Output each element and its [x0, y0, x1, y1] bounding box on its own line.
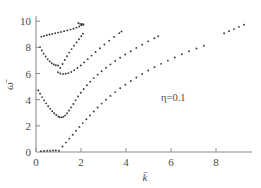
data-point: [59, 116, 61, 118]
x-tick-label: 0: [33, 156, 39, 168]
x-tick-label: 8: [213, 156, 219, 168]
data-point: [39, 46, 41, 48]
data-point: [59, 73, 61, 75]
data-point: [89, 114, 91, 116]
data-point: [93, 77, 95, 79]
data-point: [57, 71, 59, 73]
data-point: [68, 52, 70, 54]
data-point: [79, 23, 81, 25]
data-point: [124, 53, 126, 55]
data-point: [99, 47, 101, 49]
data-point: [195, 47, 197, 49]
data-point: [65, 73, 67, 75]
data-points-layer: [37, 22, 245, 152]
data-point: [103, 44, 105, 46]
data-point: [118, 32, 120, 34]
data-point: [77, 96, 79, 98]
data-point: [68, 138, 70, 140]
data-point: [67, 72, 69, 74]
data-point: [87, 58, 89, 60]
data-point: [41, 96, 43, 98]
data-point: [174, 57, 176, 59]
data-point: [43, 150, 45, 152]
data-point: [78, 38, 80, 40]
data-point: [78, 126, 80, 128]
data-point: [73, 45, 75, 47]
data-point: [61, 116, 63, 118]
data-point: [49, 60, 51, 62]
data-point: [55, 114, 57, 116]
data-point: [83, 24, 85, 26]
data-point: [119, 57, 121, 59]
data-point: [135, 47, 137, 49]
data-point: [147, 40, 149, 42]
data-point: [72, 103, 74, 105]
data-point: [63, 116, 65, 118]
data-point: [223, 32, 225, 34]
data-point: [43, 53, 45, 55]
data-point: [97, 107, 99, 109]
y-tick-label: 0: [26, 146, 32, 158]
data-point: [46, 150, 48, 152]
data-point: [62, 63, 64, 65]
y-axis-ticks: 0246810: [20, 15, 40, 158]
data-point: [51, 62, 53, 64]
series-branch-3-optical-low-V: [37, 35, 159, 118]
data-point: [167, 60, 169, 62]
data-point: [68, 110, 70, 112]
data-point: [181, 53, 183, 55]
data-point: [153, 37, 155, 39]
data-point: [80, 35, 82, 37]
data-point: [40, 36, 42, 38]
data-point: [154, 66, 156, 68]
data-point: [55, 149, 57, 151]
data-point: [141, 73, 143, 75]
data-point: [53, 112, 55, 114]
x-axis-ticks: 02468: [33, 148, 219, 168]
data-point: [47, 58, 49, 60]
data-point: [69, 29, 71, 31]
x-axis-title: k̄: [143, 171, 149, 183]
data-point: [57, 64, 59, 66]
data-point: [114, 60, 116, 62]
data-point: [85, 118, 87, 120]
data-point: [80, 64, 82, 66]
data-point: [45, 56, 47, 58]
data-point: [70, 71, 72, 73]
data-point: [39, 93, 41, 95]
data-point: [78, 26, 80, 28]
data-point: [76, 27, 78, 29]
data-point: [110, 95, 112, 97]
data-point: [77, 22, 79, 24]
data-point: [75, 99, 77, 101]
data-point: [188, 50, 190, 52]
data-point: [59, 67, 61, 69]
data-point: [58, 150, 60, 152]
data-point: [228, 30, 230, 32]
series-branch-5-optical-steep: [57, 33, 84, 73]
data-point: [141, 44, 143, 46]
data-point: [93, 111, 95, 113]
y-tick-label: 8: [26, 41, 32, 53]
data-point: [73, 28, 75, 30]
data-point: [135, 77, 137, 79]
y-axis-title: ω̄: [3, 79, 15, 90]
data-point: [157, 35, 159, 37]
data-point: [40, 150, 42, 152]
data-point: [101, 103, 103, 105]
data-point: [57, 32, 59, 34]
data-point: [41, 50, 43, 52]
data-point: [66, 112, 68, 114]
data-point: [121, 30, 123, 32]
data-point: [60, 31, 62, 33]
y-tick-label: 4: [26, 94, 32, 106]
data-point: [160, 63, 162, 65]
data-point: [51, 110, 53, 112]
y-tick-label: 10: [20, 15, 32, 27]
data-point: [114, 91, 116, 93]
data-point: [83, 61, 85, 63]
data-point: [110, 63, 112, 65]
data-point: [70, 106, 72, 108]
x-tick-label: 6: [168, 156, 174, 168]
data-point: [130, 80, 132, 82]
